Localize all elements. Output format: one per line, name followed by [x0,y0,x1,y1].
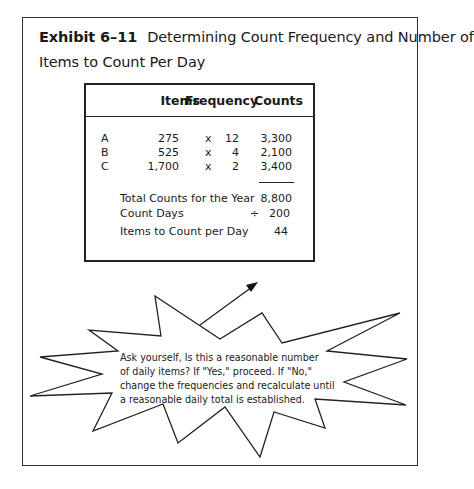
callout-line: change the frequencies and recalculate u… [120,379,330,393]
callout-line: a reasonable daily total is established. [120,393,330,407]
callout-line: Ask yourself, Is this a reasonable numbe… [120,351,330,365]
callout-line: of daily items? If "Yes," proceed. If "N… [120,365,330,379]
arrow-icon [200,282,258,325]
callout-text: Ask yourself, Is this a reasonable numbe… [120,351,330,407]
